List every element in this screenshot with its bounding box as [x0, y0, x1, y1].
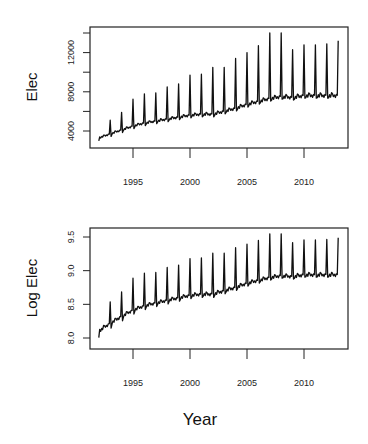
log-elec-series-line [99, 234, 338, 338]
plot-frame [90, 27, 348, 148]
x-tick-label: 2010 [294, 177, 314, 187]
y-tick-label: 9.5 [66, 231, 76, 244]
y-tick-label: 8.5 [66, 298, 76, 311]
y-axis: 8.08.59.09.5 [66, 231, 90, 345]
x-tick-label: 2000 [180, 378, 200, 388]
elec-plot: 4000800012000 1995200020052010 Elec [23, 27, 348, 187]
y-axis-title: Elec [23, 72, 40, 102]
x-tick-label: 1995 [123, 177, 143, 187]
figure: 4000800012000 1995200020052010 Elec 8.08… [0, 0, 368, 444]
x-tick-label: 1995 [123, 378, 143, 388]
y-tick-label: 4000 [66, 121, 76, 141]
y-tick-label: 8000 [66, 82, 76, 102]
y-tick-label: 12000 [66, 40, 76, 65]
x-axis-title: Year [183, 410, 218, 429]
x-tick-label: 2005 [237, 177, 257, 187]
x-tick-label: 2000 [180, 177, 200, 187]
y-axis-title: Log Elec [23, 258, 40, 317]
x-axis: 1995200020052010 [123, 148, 314, 187]
x-axis: 1995200020052010 [123, 349, 314, 388]
y-axis: 4000800012000 [66, 33, 90, 141]
plot-frame [90, 228, 348, 349]
y-tick-label: 9.0 [66, 264, 76, 277]
x-tick-label: 2005 [237, 378, 257, 388]
x-tick-label: 2010 [294, 378, 314, 388]
log-elec-plot: 8.08.59.09.5 1995200020052010 Log Elec [23, 228, 348, 388]
elec-series-line [99, 33, 338, 141]
y-tick-label: 8.0 [66, 332, 76, 345]
